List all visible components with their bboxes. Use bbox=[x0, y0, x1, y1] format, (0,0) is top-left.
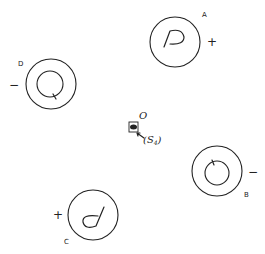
unit-a-outer-circle bbox=[150, 17, 200, 67]
unit-c: + C bbox=[53, 190, 118, 246]
unit-a-sign: + bbox=[207, 35, 217, 49]
source-dot bbox=[130, 125, 137, 130]
origin-label: O bbox=[139, 110, 147, 121]
unit-a-label: A bbox=[202, 11, 207, 19]
unit-c-label: C bbox=[64, 238, 69, 246]
unit-b-outer-circle bbox=[192, 146, 242, 196]
unit-d: D − bbox=[9, 59, 76, 109]
unit-b-label: B bbox=[244, 191, 249, 199]
source-label: (S4) bbox=[143, 134, 162, 146]
d-shape-icon bbox=[83, 207, 104, 227]
p-shape-icon bbox=[164, 30, 184, 47]
unit-d-label: D bbox=[18, 60, 23, 68]
unit-b-sign: − bbox=[248, 165, 258, 179]
unit-d-inner-circle bbox=[37, 71, 63, 97]
unit-c-outer-circle bbox=[68, 190, 118, 240]
unit-d-sign: − bbox=[9, 78, 19, 92]
diagram-canvas: A + D − O (S4) − B + C bbox=[0, 0, 265, 254]
unit-b: − B bbox=[192, 146, 258, 199]
unit-c-sign: + bbox=[53, 208, 63, 222]
center-source: O (S4) bbox=[129, 110, 162, 146]
unit-d-outer-circle bbox=[26, 59, 76, 109]
unit-b-inner-circle bbox=[205, 161, 229, 185]
unit-a: A + bbox=[150, 11, 217, 67]
